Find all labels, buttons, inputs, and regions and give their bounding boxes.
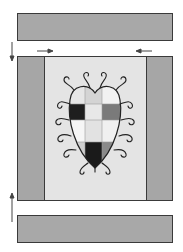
down-arrow-icon [10, 42, 14, 61]
diagram-overlay [0, 0, 183, 252]
up-arrow-icon [10, 193, 14, 222]
left-arrow-icon [136, 49, 152, 53]
right-arrow-icon [37, 49, 53, 53]
